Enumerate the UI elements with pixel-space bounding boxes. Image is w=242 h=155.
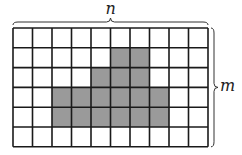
grid-lines	[13, 28, 208, 147]
shaded-cell	[130, 68, 150, 88]
top-brace	[13, 18, 208, 25]
shaded-cell	[130, 48, 150, 68]
label-m: m	[220, 76, 235, 95]
right-brace	[211, 28, 218, 147]
shaded-cell	[150, 87, 170, 107]
shaded-cell	[150, 107, 170, 127]
shaded-cell	[91, 68, 111, 88]
shaded-cell	[91, 107, 111, 127]
shaded-cell	[130, 107, 150, 127]
shaded-cell	[111, 48, 131, 68]
shaded-cell	[72, 107, 92, 127]
shaded-cell	[52, 107, 72, 127]
shaded-cell	[91, 87, 111, 107]
label-n: n	[106, 0, 116, 18]
shaded-cell	[111, 87, 131, 107]
shaded-cell	[111, 107, 131, 127]
grid-diagram: n m	[0, 0, 242, 155]
shaded-cell	[130, 87, 150, 107]
shaded-cell	[52, 87, 72, 107]
shaded-cell	[72, 87, 92, 107]
shaded-cell	[111, 68, 131, 88]
